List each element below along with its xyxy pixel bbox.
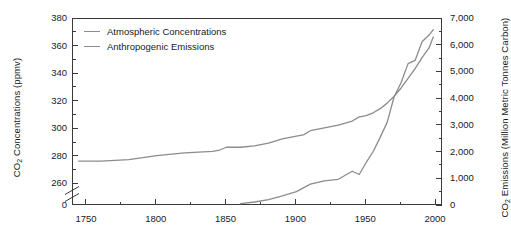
tick-label: 380: [27, 12, 67, 23]
legend: Atmospheric Concentrations Anthropogenic…: [84, 24, 226, 54]
legend-item-atmospheric-concentrations: Atmospheric Concentrations: [84, 24, 226, 38]
legend-swatch-icon: [84, 46, 100, 47]
tick-label: 1,000: [450, 172, 494, 183]
tick-label: 4,000: [450, 92, 494, 103]
y-axis-left-title-subscript: 2: [16, 159, 23, 163]
tick-label: 2000: [410, 213, 460, 224]
tick-label: 1900: [270, 213, 320, 224]
tick-label: 340: [27, 67, 67, 78]
tick-label: 360: [27, 40, 67, 51]
y-axis-right-title: CO2 Emissions (Million Metric Tonnes Car…: [499, 13, 510, 223]
tick-label: 1850: [201, 213, 251, 224]
series-line-anthropogenic-emissions: [241, 30, 434, 204]
tick-label: 1950: [340, 213, 390, 224]
legend-item-anthropogenic-emissions: Anthropogenic Emissions: [84, 39, 226, 53]
legend-swatch-icon: [84, 31, 100, 32]
tick-label: 320: [27, 95, 67, 106]
y-axis-left-title-main: CO: [11, 163, 22, 177]
y-axis-left-title: CO2 Concentrations (ppmv): [11, 48, 22, 188]
y-axis-right-title-subscript: 2: [504, 199, 511, 203]
y-axis-right-title-rest: Emissions (Million Metric Tonnes Carbon): [499, 18, 510, 199]
tick-label: 1800: [131, 213, 181, 224]
tick-label: 3,000: [450, 119, 494, 130]
tick-label: 5,000: [450, 65, 494, 76]
tick-label: 1750: [61, 213, 111, 224]
tick-label: 260: [27, 177, 67, 188]
tick-label: 0: [450, 199, 494, 210]
tick-label: 6,000: [450, 39, 494, 50]
tick-label: 0: [27, 199, 67, 210]
tick-label: 300: [27, 122, 67, 133]
legend-label: Atmospheric Concentrations: [107, 26, 226, 37]
tick-label: 280: [27, 150, 67, 161]
y-axis-right-title-main: CO: [499, 203, 510, 217]
legend-label: Anthropogenic Emissions: [107, 41, 214, 52]
y-axis-left-title-rest: Concentrations (ppmv): [11, 58, 22, 159]
tick-label: 2,000: [450, 146, 494, 157]
tick-label: 7,000: [450, 12, 494, 23]
series-line-atmospheric-concentrations: [79, 37, 434, 161]
